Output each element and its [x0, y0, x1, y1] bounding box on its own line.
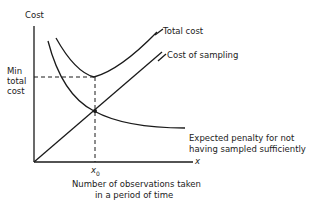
- sampling-cost-line: [34, 52, 162, 162]
- x-axis-symbol: x: [195, 156, 200, 166]
- cost-diagram: [0, 0, 309, 205]
- total-cost-curve: [56, 32, 157, 77]
- x-caption-1: Number of observations taken: [72, 179, 201, 189]
- total-cost-label: Total cost: [163, 26, 203, 36]
- min-label-3: cost: [7, 86, 25, 96]
- intersection-point: [93, 109, 97, 113]
- x-caption-2: in a period of time: [95, 190, 173, 200]
- sampling-cost-label: Cost of sampling: [167, 50, 238, 60]
- y-axis-label: Cost: [25, 10, 44, 20]
- x0-label: x0: [91, 165, 100, 179]
- min-label-1: Min: [7, 66, 22, 76]
- penalty-curve: [48, 41, 185, 128]
- penalty-label-2: having sampled sufficiently: [189, 144, 306, 154]
- min-label-2: total: [7, 76, 26, 86]
- penalty-label-1: Expected penalty for not: [189, 133, 294, 143]
